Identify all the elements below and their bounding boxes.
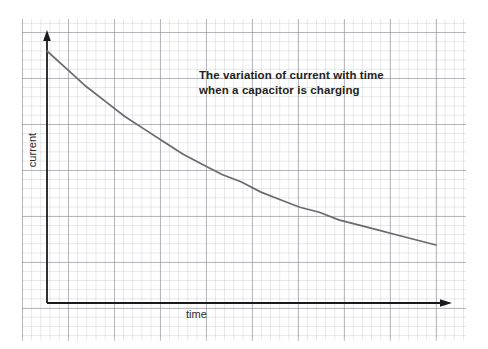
- chart-title-line-1: The variation of current with time: [199, 68, 439, 83]
- x-axis-label: time: [186, 308, 207, 320]
- chart-title: The variation of current with time when …: [199, 68, 439, 98]
- y-axis: [43, 30, 51, 303]
- y-axis-label: current: [26, 115, 38, 185]
- chart-title-line-2: when a capacitor is charging: [199, 83, 439, 98]
- plot-area: [0, 0, 488, 349]
- x-axis: [47, 299, 452, 307]
- graph-figure: The variation of current with time when …: [0, 0, 488, 349]
